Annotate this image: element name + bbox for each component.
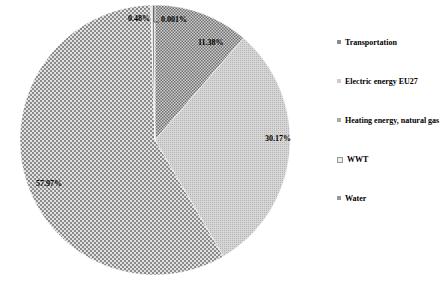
legend-item-transportation: Transportation xyxy=(337,38,445,77)
swatch-water xyxy=(337,196,341,200)
legend-item-electric-energy: Electric energy EU27 xyxy=(337,77,445,116)
legend-item-water: Water xyxy=(337,194,445,233)
swatch-transportation xyxy=(337,40,341,44)
legend-label: Electric energy EU27 xyxy=(345,77,418,86)
label-transportation: 11.38% xyxy=(198,38,224,47)
label-water: 0.48% xyxy=(128,14,150,23)
swatch-heating-energy xyxy=(337,118,341,122)
legend-label: Transportation xyxy=(345,38,397,47)
label-electric-energy: 30.17% xyxy=(265,134,291,143)
legend-label: Heating energy, natural gas xyxy=(345,116,439,125)
legend-item-heating-energy: Heating energy, natural gas xyxy=(337,116,445,155)
legend-label: WWT xyxy=(347,155,368,164)
legend-item-wwt: WWT xyxy=(337,155,445,194)
label-heating-energy: 57.97% xyxy=(36,179,62,188)
legend-label: Water xyxy=(345,194,366,203)
swatch-wwt xyxy=(337,157,343,163)
pie-slices xyxy=(20,5,290,275)
label-wwt: 0.001% xyxy=(161,15,187,24)
legend: Transportation Electric energy EU27 Heat… xyxy=(337,38,445,233)
swatch-electric-energy xyxy=(337,79,341,83)
